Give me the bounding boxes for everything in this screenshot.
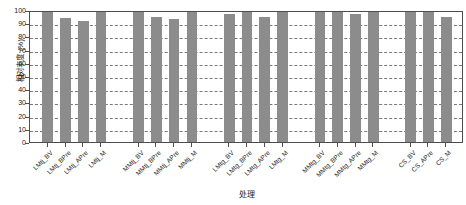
y-axis-tick-label: 20 [0,112,26,119]
bar [187,11,198,142]
bar [259,17,270,142]
x-axis-tick [319,143,320,147]
bar [242,11,253,142]
bar [42,11,53,142]
bar [368,11,379,142]
bar [332,11,343,142]
x-axis-tick [82,143,83,147]
x-axis-tick [282,143,283,147]
y-axis-tick-label: 100 [0,7,26,14]
bar [169,19,180,142]
x-axis-tick [410,143,411,147]
x-axis-title: 处理 [28,188,466,199]
x-axis-tick [65,143,66,147]
y-axis-tick-label: 50 [0,73,26,80]
y-axis-tick-label: 10 [0,125,26,132]
bar [96,11,107,142]
y-axis-tick-label: 0 [0,139,26,146]
x-axis-tick [155,143,156,147]
bar [277,11,288,142]
x-axis-tick [445,143,446,147]
bar [60,18,71,142]
bar [78,21,89,142]
x-axis-tick [355,143,356,147]
x-axis-tick [337,143,338,147]
y-axis-tick-label: 60 [0,59,26,66]
bar [224,14,235,142]
x-axis-tick [47,143,48,147]
x-axis-tick [100,143,101,147]
y-axis-tick-label: 70 [0,46,26,53]
x-axis-tick [372,143,373,147]
y-axis-tick-label: 90 [0,20,26,27]
bar [350,14,361,142]
y-axis-tick [25,143,29,144]
y-axis-tick-label: 80 [0,33,26,40]
x-axis-tick [427,143,428,147]
bar [151,17,162,142]
bar [133,11,144,142]
bar [315,11,326,142]
y-axis-tick-label: 40 [0,86,26,93]
plot-area [29,11,463,143]
y-axis-tick-label: 30 [0,99,26,106]
x-axis-tick [228,143,229,147]
bar-chart-figure: 相对丰度 (%) 0102030405060708090100 LMtj_BVL… [0,0,466,205]
x-axis-tick [191,143,192,147]
bar [405,11,416,142]
x-axis-tick [246,143,247,147]
bar [441,17,452,142]
x-axis-tick [264,143,265,147]
x-axis-tick [173,143,174,147]
x-axis-tick [138,143,139,147]
bar [423,11,434,142]
